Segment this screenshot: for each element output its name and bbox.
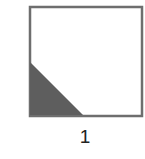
- figure-label: 1: [70, 127, 100, 147]
- diagram-figure: 1: [0, 0, 145, 159]
